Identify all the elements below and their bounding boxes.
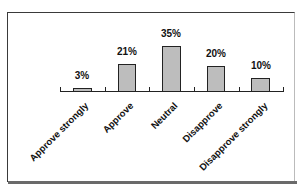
x-axis-tick bbox=[149, 87, 150, 92]
frame-shadow bbox=[8, 181, 297, 184]
x-axis-tick bbox=[194, 87, 195, 92]
value-label: 21% bbox=[107, 46, 147, 57]
x-axis-tick bbox=[283, 87, 284, 92]
bar-approve-strongly bbox=[73, 88, 92, 92]
value-label: 35% bbox=[151, 28, 191, 39]
bar-disapprove bbox=[207, 66, 225, 92]
x-axis-tick bbox=[239, 87, 240, 92]
value-label: 10% bbox=[241, 60, 281, 71]
x-axis-tick bbox=[60, 87, 61, 92]
value-label: 3% bbox=[62, 70, 102, 81]
x-axis-tick bbox=[105, 87, 106, 92]
value-label: 20% bbox=[196, 48, 236, 59]
bar-disapprove-strongly bbox=[251, 78, 270, 92]
bar-neutral bbox=[162, 46, 181, 92]
bar-approve bbox=[118, 64, 136, 92]
